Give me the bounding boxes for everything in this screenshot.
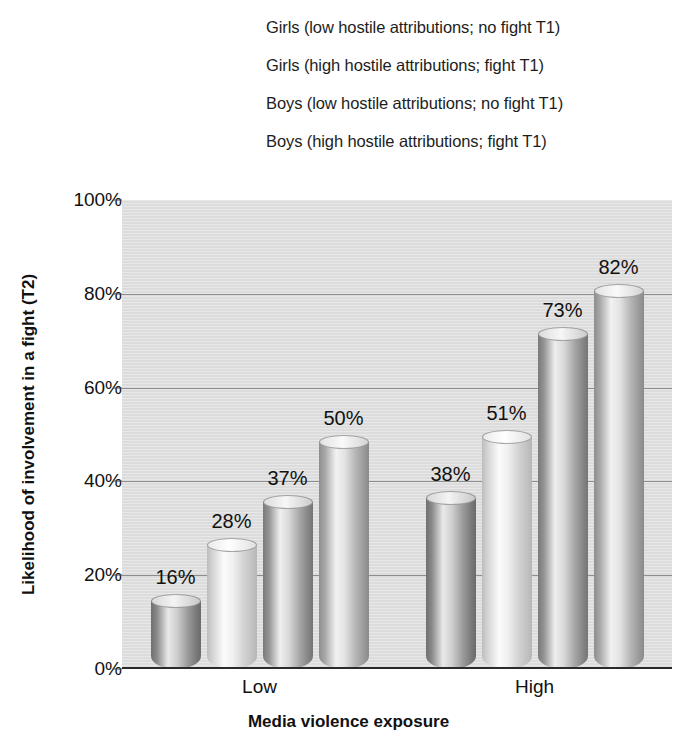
y-tick-label: 20% [0,564,122,586]
bar[interactable]: 16% [151,594,201,669]
legend-item-label: Girls (high hostile attributions; fight … [266,56,544,75]
y-tick-mark [113,293,122,294]
swatch-top [222,16,254,26]
bar[interactable]: 37% [263,495,313,669]
legend-item[interactable]: Girls (low hostile attributions; no figh… [222,8,560,46]
swatch-top [222,130,254,140]
plot-area: 16%28%37%50%38%51%73%82% [122,200,672,669]
y-tick-mark [113,387,122,388]
bar[interactable]: 28% [207,538,257,669]
legend-item[interactable]: Boys (high hostile attributions; fight T… [222,122,547,160]
y-tick-mark [113,481,122,482]
legend-item[interactable]: Boys (low hostile attributions; no fight… [222,84,563,122]
x-axis-baseline [122,667,672,669]
bar-body [538,334,588,669]
bar-top-ellipse [151,594,201,608]
bar[interactable]: 73% [538,327,588,669]
x-category-label: High [515,676,554,698]
x-category-label: Low [242,676,277,698]
bar-value-label: 28% [211,510,251,533]
x-axis-title: Media violence exposure [0,712,697,732]
bar-body [263,502,313,669]
bar-top-ellipse [319,435,369,449]
bar-top-ellipse [207,538,257,552]
swatch-top [222,92,254,102]
bar-value-label: 50% [323,407,363,430]
chart-legend: Girls (low hostile attributions; no figh… [0,8,697,160]
bar-top-ellipse [538,327,588,341]
bar-body [207,545,257,669]
cylinder-swatch-medium-dark-icon [222,92,254,114]
y-tick-label: 0% [0,658,122,680]
bar-top-ellipse [426,491,476,505]
y-tick-label: 80% [0,283,122,305]
bar-body [594,291,644,669]
gridline [122,388,672,389]
bar-value-label: 16% [155,566,195,589]
bar-value-label: 73% [542,299,582,322]
bar-value-label: 51% [486,402,526,425]
bar[interactable]: 51% [482,430,532,669]
legend-item-label: Girls (low hostile attributions; no figh… [266,18,560,37]
bar[interactable]: 50% [319,435,369,670]
legend-item[interactable]: Girls (high hostile attributions; fight … [222,46,544,84]
swatch-top [222,54,254,64]
y-tick-label: 100% [0,189,122,211]
gridline [122,575,672,576]
bar-value-label: 38% [430,463,470,486]
bar-value-label: 82% [598,256,638,279]
bar-top-ellipse [482,430,532,444]
bar[interactable]: 82% [594,284,644,669]
y-axis-title: Likelihood of involvement in a fight (T2… [14,200,44,669]
bar[interactable]: 38% [426,491,476,669]
bar-body [482,437,532,669]
cylinder-swatch-light-icon [222,54,254,76]
bar-value-label: 37% [267,467,307,490]
y-tick-mark [113,669,122,670]
bar-body [151,601,201,669]
bar-body [426,498,476,669]
gridline [122,481,672,482]
gridline [122,294,672,295]
legend-item-label: Boys (low hostile attributions; no fight… [266,94,563,113]
cylinder-swatch-medium-icon [222,130,254,152]
y-tick-mark [113,575,122,576]
plot-background-texture [122,200,672,669]
y-tick-mark [113,200,122,201]
legend-item-label: Boys (high hostile attributions; fight T… [266,132,547,151]
y-tick-label: 40% [0,470,122,492]
bar-body [319,442,369,670]
cylinder-swatch-dark-icon [222,16,254,38]
y-tick-label: 60% [0,377,122,399]
